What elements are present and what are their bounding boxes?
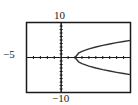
- axes: [27, 23, 131, 93]
- lower-branch-curve: [75, 58, 130, 75]
- upper-branch-curve: [75, 40, 130, 57]
- graph-window: [0, 0, 138, 105]
